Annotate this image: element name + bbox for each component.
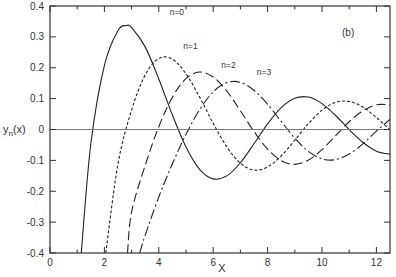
y-tick-label: -0.1 — [27, 155, 45, 166]
x-tick-label: 12 — [371, 257, 383, 268]
y-tick-label: 0 — [38, 124, 44, 135]
bessel-function-chart: 0246810120.40.30.20.10-0.1-0.2-0.3-0.4 n… — [0, 0, 396, 277]
curve-labels: n=0n=1n=2n=3 — [170, 7, 272, 77]
x-tick-label: 8 — [265, 257, 271, 268]
axis-ticks: 0246810120.40.30.20.10-0.1-0.2-0.3-0.4 — [27, 1, 390, 269]
y-tick-label: 0.1 — [30, 93, 44, 104]
panel-label: (b) — [342, 27, 354, 38]
x-tick-label: 6 — [210, 257, 216, 268]
y-tick-label: 0.4 — [30, 1, 44, 12]
x-tick-label: 2 — [102, 257, 108, 268]
x-tick-label: 10 — [316, 257, 328, 268]
curve-label: n=0 — [170, 7, 185, 17]
x-tick-label: 0 — [47, 257, 53, 268]
y-tick-label: 0.2 — [30, 62, 44, 73]
x-axis-label: X — [218, 262, 226, 274]
curve-label: n=3 — [257, 67, 272, 77]
y-axis-label: yn(x) — [3, 123, 26, 138]
y-tick-label: -0.4 — [27, 248, 45, 259]
y-tick-label: -0.2 — [27, 186, 45, 197]
curve-n3 — [140, 81, 390, 253]
y-tick-label: -0.3 — [27, 217, 45, 228]
x-tick-label: 4 — [156, 257, 162, 268]
y-tick-label: 0.3 — [30, 31, 44, 42]
curve-label: n=2 — [221, 60, 236, 70]
curve-label: n=1 — [183, 41, 198, 51]
